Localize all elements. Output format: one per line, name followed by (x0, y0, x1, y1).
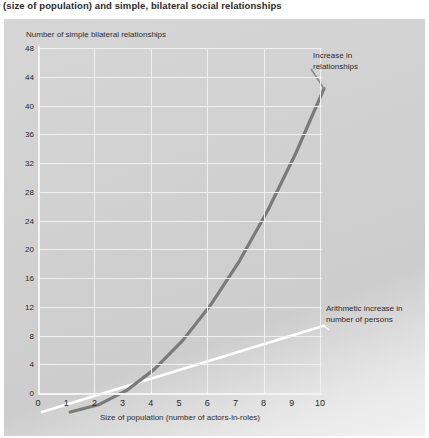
y-tick-labels: 04812162024283236404448 (12, 0, 34, 438)
gridline-horizontal (38, 336, 322, 337)
x-axis-label: Size of population (number of actors-in-… (38, 413, 322, 422)
x-tick-label: 0 (28, 398, 48, 408)
y-tick-label: 12 (14, 302, 34, 311)
y-tick-label: 24 (14, 216, 34, 225)
gridline-horizontal (38, 77, 322, 78)
x-tick-label: 6 (197, 398, 217, 408)
leader-line-arithmetic (324, 326, 329, 330)
gridline-horizontal (38, 48, 322, 49)
y-axis-line (38, 46, 40, 395)
annotation-line-1: Arithmetic increase in (326, 303, 402, 314)
x-tick-label: 7 (225, 398, 245, 408)
gridline-vertical (151, 48, 152, 393)
y-tick-mark (46, 106, 50, 107)
x-tick-label: 10 (310, 398, 330, 408)
y-tick-mark (46, 364, 50, 365)
y-tick-mark (46, 221, 50, 222)
y-tick-mark (46, 336, 50, 337)
annotation-line-2: relationships (313, 61, 358, 72)
annotation-line-2: number of persons (326, 314, 402, 325)
chart-svg (4, 19, 429, 438)
gridline-horizontal (38, 163, 322, 164)
y-tick-mark (46, 134, 50, 135)
gridline-horizontal (38, 221, 322, 222)
annotation-increase-relationships: Increase in relationships (313, 50, 358, 72)
y-axis-label: Number of simple bilateral relationships (26, 30, 166, 39)
y-tick-mark (46, 163, 50, 164)
x-tick-label: 5 (169, 398, 189, 408)
y-tick-mark (46, 278, 50, 279)
y-tick-mark (46, 307, 50, 308)
x-axis-line (38, 393, 322, 395)
x-tick-label: 8 (254, 398, 274, 408)
annotation-line-1: Increase in (313, 50, 358, 61)
gridline-vertical (320, 48, 321, 393)
y-tick-label: 0 (14, 389, 34, 398)
gridline-horizontal (38, 192, 322, 193)
y-tick-mark (46, 393, 50, 394)
y-tick-mark (46, 249, 50, 250)
y-tick-label: 8 (14, 331, 34, 340)
gridline-vertical (94, 48, 95, 393)
y-tick-label: 40 (14, 101, 34, 110)
y-tick-label: 48 (14, 44, 34, 53)
x-tick-label: 4 (141, 398, 161, 408)
annotation-arithmetic-increase: Arithmetic increase in number of persons (326, 303, 402, 325)
gridline-horizontal (38, 307, 322, 308)
y-tick-label: 32 (14, 159, 34, 168)
y-tick-mark (46, 192, 50, 193)
gridline-horizontal (38, 249, 322, 250)
gridline-vertical (264, 48, 265, 393)
x-tick-label: 2 (84, 398, 104, 408)
figure-card (4, 19, 425, 436)
y-tick-label: 44 (14, 72, 34, 81)
gridline-horizontal (38, 106, 322, 107)
y-tick-label: 36 (14, 130, 34, 139)
gridline-horizontal (38, 278, 322, 279)
x-tick-label: 3 (113, 398, 133, 408)
y-tick-label: 28 (14, 187, 34, 196)
y-tick-mark (46, 77, 50, 78)
x-tick-label: 9 (282, 398, 302, 408)
gridline-horizontal (38, 134, 322, 135)
x-tick-label: 1 (56, 398, 76, 408)
y-tick-mark (46, 48, 50, 49)
y-tick-label: 16 (14, 274, 34, 283)
gridline-horizontal (38, 364, 322, 365)
figure-caption: (size of population) and simple, bilater… (3, 0, 423, 11)
gridline-vertical (207, 48, 208, 393)
y-tick-label: 20 (14, 245, 34, 254)
y-tick-label: 4 (14, 360, 34, 369)
